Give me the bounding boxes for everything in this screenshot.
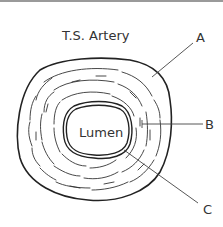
leader-line-a (152, 43, 193, 77)
lumen-label: Lumen (79, 125, 123, 140)
leader-line-c (124, 150, 198, 203)
artery-diagram: T.S. Artery (0, 0, 223, 227)
diagram-title: T.S. Artery (61, 28, 130, 43)
label-b: B (205, 117, 214, 132)
label-a: A (196, 30, 205, 45)
label-c: C (203, 202, 212, 217)
